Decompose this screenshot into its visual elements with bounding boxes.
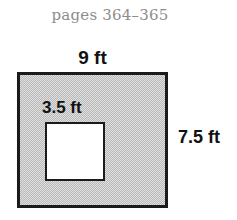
inner-square-side-label: 3.5 ft [42,99,82,116]
page-reference-caption: pages 364–365 [0,5,220,25]
outer-height-label: 7.5 ft [178,128,220,146]
inner-white-square [45,122,105,181]
outer-width-label: 9 ft [17,48,168,67]
geometry-figure: pages 364–365 9 ft 3.5 ft 7.5 ft [0,0,237,220]
